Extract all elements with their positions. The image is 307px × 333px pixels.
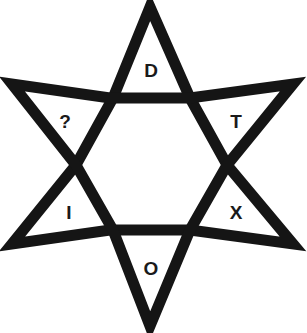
label-bottom: O (144, 258, 159, 279)
upward-triangle (12, 7, 293, 244)
label-lower-left: I (66, 202, 71, 223)
label-top: D (144, 60, 158, 81)
star-puzzle: D ? T I X O (0, 0, 307, 333)
label-lower-right: X (230, 202, 243, 223)
label-upper-left: ? (59, 111, 71, 132)
star-diagram: D ? T I X O (0, 0, 307, 333)
label-upper-right: T (230, 111, 242, 132)
downward-triangle (12, 84, 293, 326)
